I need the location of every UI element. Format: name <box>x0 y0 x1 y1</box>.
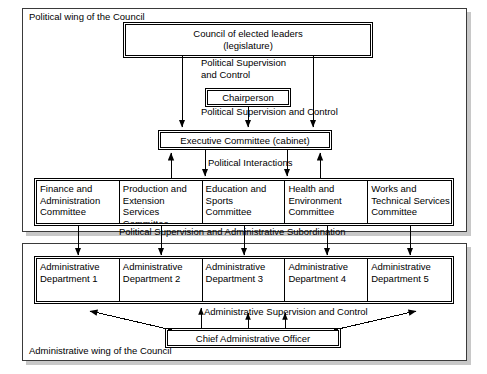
relation-label-political-supervision-and-administrative-subordination: Political Supervision and Administrative… <box>119 226 346 238</box>
committee-production-and-extension-services[interactable]: Production and Extension Services Commit… <box>120 181 203 223</box>
administrative-department-3[interactable]: Administrative Department 3 <box>203 259 286 301</box>
administrative-department-5[interactable]: Administrative Department 5 <box>368 259 451 301</box>
committee-education-and-sports[interactable]: Education and Sports Committee <box>203 181 286 223</box>
council-of-elected-leaders-label: Council of elected leaders (legislature) <box>126 25 370 52</box>
political-wing-label: Political wing of the Council <box>29 11 145 22</box>
administrative-department-1[interactable]: Administrative Department 1 <box>37 259 120 301</box>
administrative-wing-label: Administrative wing of the Council <box>29 345 172 356</box>
chairperson-box[interactable]: Chairperson <box>207 90 289 105</box>
administrative-department-2[interactable]: Administrative Department 2 <box>120 259 203 301</box>
relation-label-administrative-supervision-and-control: Administrative Supervision and Control <box>204 306 368 318</box>
chairperson-label: Chairperson <box>208 91 288 105</box>
committee-works-and-technical-services[interactable]: Works and Technical Services Committee <box>368 181 451 223</box>
department-row: Administrative Department 1 Administrati… <box>36 258 452 302</box>
chief-administrative-officer-label: Chief Administrative Officer <box>168 331 338 346</box>
committee-row: Finance and Administration Committee Pro… <box>36 180 452 224</box>
committee-health-and-environment[interactable]: Health and Environment Committee <box>285 181 368 223</box>
administrative-department-4[interactable]: Administrative Department 4 <box>285 259 368 301</box>
executive-committee-label: Executive Committee (cabinet) <box>161 133 329 148</box>
relation-label-political-supervision-and-control: Political Supervision and Control <box>201 57 286 80</box>
council-of-elected-leaders-box[interactable]: Council of elected leaders (legislature) <box>125 24 371 56</box>
relation-label-political-interactions: Political Interactions <box>208 157 292 169</box>
committee-finance-and-administration[interactable]: Finance and Administration Committee <box>37 181 120 223</box>
relation-label-political-supervision-and-control-inline: Political Supervision and Control <box>201 106 338 118</box>
diagram-canvas: Political wing of the Council Administra… <box>0 0 487 374</box>
executive-committee-box[interactable]: Executive Committee (cabinet) <box>160 132 330 148</box>
chief-administrative-officer-box[interactable]: Chief Administrative Officer <box>167 330 339 346</box>
